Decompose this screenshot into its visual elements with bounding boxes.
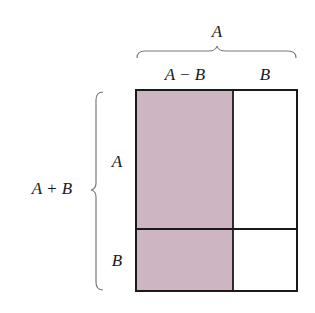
diagram-svg	[0, 0, 315, 313]
label-left-total: A + B	[32, 180, 72, 197]
left-brace-icon	[91, 92, 103, 290]
shaded-region-a-minus-b	[136, 90, 233, 291]
label-top-left-width: A − B	[165, 66, 205, 83]
label-left-lower-height: B	[112, 252, 122, 269]
diagram-canvas: A A − B B A + B A B	[0, 0, 315, 313]
label-left-upper-height: A	[112, 153, 122, 170]
top-brace-icon	[137, 46, 296, 58]
label-top-right-width: B	[260, 66, 270, 83]
unshaded-region-b	[233, 90, 297, 291]
label-top-total: A	[212, 23, 222, 40]
